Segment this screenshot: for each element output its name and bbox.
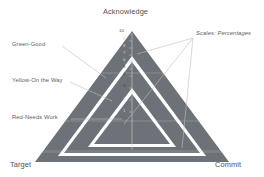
annotation-scales-percentages: Scales: Percentages <box>196 31 251 37</box>
radar-triangle-chart: Acknowledge Target Commit Scales: Percen… <box>0 0 264 177</box>
axis-label-acknowledge: Acknowledge <box>103 8 148 15</box>
axis-tick-5: 5 <box>123 65 125 69</box>
axis-tick-3: 3 <box>123 84 125 88</box>
axis-tick-10: 10 <box>119 29 124 33</box>
annotation-red-needs-work: Red-Needs Work <box>12 115 58 121</box>
chart-canvas <box>0 0 264 177</box>
axis-tick-6: 6 <box>123 58 125 62</box>
axis-tick-7: 7 <box>123 51 125 55</box>
annotation-yellow-on-the-way: Yellow-On the Way <box>12 78 63 84</box>
axis-tick-9: 9 <box>123 37 125 41</box>
axis-tick-4: 4 <box>123 72 125 76</box>
axis-label-target: Target <box>10 161 31 168</box>
annotation-green-good: Green-Good <box>12 42 45 48</box>
axis-tick-8: 8 <box>123 44 125 48</box>
axis-tick-2: 2 <box>123 97 125 101</box>
axis-tick-1: 1 <box>123 109 125 113</box>
axis-label-commit: Commit <box>215 161 241 168</box>
